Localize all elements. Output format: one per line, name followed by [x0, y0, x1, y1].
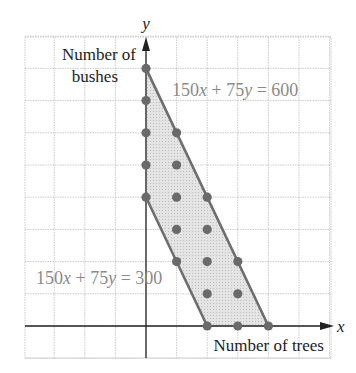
- lower-boundary-equation: 150x + 75y = 300: [36, 268, 162, 288]
- y-axis-label-line2: bushes: [72, 67, 118, 86]
- integer-point: [141, 64, 150, 73]
- integer-point: [172, 193, 181, 202]
- integer-point: [203, 257, 212, 266]
- integer-point: [172, 257, 181, 266]
- integer-point: [172, 225, 181, 234]
- integer-point: [203, 289, 212, 298]
- upper-boundary-equation: 150x + 75y = 600: [172, 80, 298, 100]
- integer-point: [233, 257, 242, 266]
- integer-point: [141, 128, 150, 137]
- integer-point: [203, 225, 212, 234]
- integer-point: [203, 321, 212, 330]
- integer-point: [233, 321, 242, 330]
- integer-point: [203, 193, 212, 202]
- x-axis-symbol: x: [336, 317, 345, 336]
- integer-point: [141, 96, 150, 105]
- integer-point: [141, 193, 150, 202]
- x-axis-arrow-icon: [320, 322, 334, 330]
- y-axis-arrow-icon: [142, 37, 150, 51]
- integer-point: [172, 160, 181, 169]
- y-axis-symbol: y: [140, 14, 150, 33]
- integer-point: [264, 321, 273, 330]
- y-axis-label-line1: Number of: [62, 45, 136, 64]
- integer-point: [233, 289, 242, 298]
- x-axis-label: Number of trees: [214, 336, 324, 355]
- integer-point: [172, 128, 181, 137]
- integer-point: [141, 160, 150, 169]
- feasible-region-diagram: y x Number of bushes Number of trees 150…: [0, 0, 356, 373]
